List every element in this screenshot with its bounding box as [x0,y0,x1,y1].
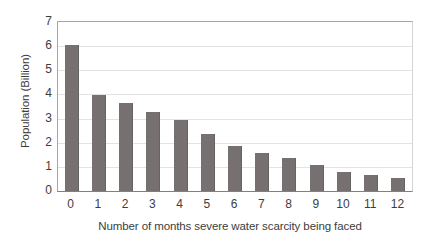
y-axis-tick-labels: 01234567 [32,21,52,190]
x-axis-tick-label: 1 [84,195,111,213]
bar-slot [385,22,412,191]
y-axis-tick-label: 1 [32,160,52,172]
y-axis-tick-label: 0 [32,184,52,196]
bar-slot [276,22,303,191]
x-axis-tick-labels: 0123456789101112 [57,195,411,213]
bar[interactable] [92,95,106,191]
bar[interactable] [119,103,133,191]
bar[interactable] [282,158,296,191]
x-axis-tick-label: 5 [193,195,220,213]
bar[interactable] [310,165,324,191]
bar[interactable] [364,175,378,191]
bar-slot [330,22,357,191]
x-axis-tick-label: 10 [329,195,356,213]
bar[interactable] [391,178,405,191]
bar[interactable] [228,146,242,191]
x-axis-tick-label: 8 [275,195,302,213]
bar[interactable] [255,153,269,191]
bar[interactable] [174,120,188,191]
bar[interactable] [337,172,351,191]
bar-slot [194,22,221,191]
x-axis-tick-label: 12 [384,195,411,213]
bar-slot [303,22,330,191]
bar-slot [58,22,85,191]
bar[interactable] [65,45,79,191]
x-axis-tick-label: 6 [220,195,247,213]
y-axis-tick-label: 4 [32,87,52,99]
x-axis-tick-label: 11 [357,195,384,213]
x-axis-tick-label: 2 [111,195,138,213]
x-axis-title: Number of months severe water scarcity b… [40,220,420,232]
x-axis-tick-label: 9 [302,195,329,213]
bar-slot [221,22,248,191]
x-axis-tick-label: 4 [166,195,193,213]
x-axis-tick-label: 0 [57,195,84,213]
bar-slot [167,22,194,191]
bar[interactable] [201,134,215,191]
bar[interactable] [146,112,160,191]
bar-slot [112,22,139,191]
bar-slot [140,22,167,191]
plot-area [57,21,413,192]
y-axis-tick-label: 7 [32,15,52,27]
y-axis-tick-label: 6 [32,39,52,51]
bar-slot [85,22,112,191]
y-axis-tick-label: 2 [32,136,52,148]
bar-series [58,22,412,191]
bar-slot [358,22,385,191]
bar-slot [249,22,276,191]
y-axis-tick-label: 3 [32,112,52,124]
x-axis-tick-label: 3 [139,195,166,213]
x-axis-tick-label: 7 [248,195,275,213]
bar-chart-figure: Population (Billion) 01234567 0123456789… [0,0,424,247]
y-axis-tick-label: 5 [32,63,52,75]
